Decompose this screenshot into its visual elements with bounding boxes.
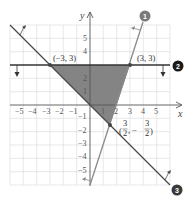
vertex-point-b	[128, 63, 132, 67]
svg-text:−4: −4	[78, 152, 87, 161]
svg-text:2: 2	[114, 107, 118, 116]
svg-text:4: 4	[83, 47, 87, 56]
line-1-badge: 1	[140, 11, 151, 22]
y-axis-label: y	[79, 10, 85, 21]
svg-text:(: (	[119, 126, 122, 136]
vertex-label-c: ( 3 2 , − 3 2 )	[119, 118, 153, 138]
svg-text:): )	[150, 126, 153, 136]
svg-text:3: 3	[145, 118, 149, 128]
line-3-badge: 3	[172, 185, 183, 196]
svg-text:−1: −1	[69, 107, 78, 116]
svg-text:3: 3	[175, 187, 179, 194]
svg-text:−5: −5	[78, 166, 87, 175]
y-tick-labels: 5 4 2 1 −1 −2 −3 −4 −5	[78, 34, 87, 175]
vertex-label-b: (3, 3)	[137, 53, 156, 63]
svg-text:−5: −5	[15, 107, 24, 116]
svg-text:, −: , −	[128, 125, 137, 135]
arrow-left-icon	[131, 26, 135, 30]
svg-text:5: 5	[154, 107, 158, 116]
svg-text:2: 2	[176, 63, 180, 70]
svg-text:−2: −2	[78, 126, 87, 135]
vertex-point-a	[48, 63, 52, 67]
vertex-label-a: (−3, 3)	[53, 53, 76, 63]
svg-text:1: 1	[143, 13, 147, 20]
vertex-point-c	[108, 123, 112, 127]
line-2-badge: 2	[173, 61, 184, 72]
svg-text:1: 1	[83, 87, 87, 96]
svg-text:2: 2	[123, 128, 127, 138]
svg-text:2: 2	[83, 74, 87, 83]
arrow-up-icon	[22, 25, 26, 29]
x-axis-label: x	[177, 108, 183, 119]
svg-text:−4: −4	[28, 107, 37, 116]
svg-text:5: 5	[83, 34, 87, 43]
inequality-graph: (−3, 3) (3, 3) ( 3 2 , − 3 2 ) −5 −4 −3 …	[0, 0, 196, 205]
svg-text:3: 3	[123, 118, 127, 128]
arrow-down-icon	[15, 72, 20, 77]
arrow-left-icon	[82, 177, 86, 181]
svg-text:3: 3	[128, 107, 132, 116]
svg-text:4: 4	[141, 107, 145, 116]
arrow-up-icon	[167, 170, 171, 174]
svg-text:−3: −3	[42, 107, 51, 116]
svg-text:−1: −1	[78, 112, 87, 121]
svg-text:−2: −2	[55, 107, 64, 116]
svg-text:1: 1	[101, 107, 105, 116]
svg-text:2: 2	[145, 128, 149, 138]
svg-text:−3: −3	[78, 139, 87, 148]
arrow-down-icon	[161, 72, 166, 77]
